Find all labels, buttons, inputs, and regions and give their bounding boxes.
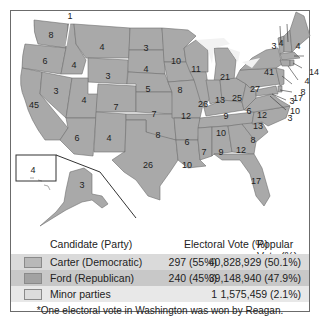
label-id: 4 [71,60,76,70]
state-ny [240,48,282,70]
popular-vote: 39,148,940 (47.9%) [209,270,301,286]
label-ms: 7 [201,147,206,157]
label-ny: 41 [264,67,274,77]
header-electoral: Electoral Vote (%) [184,238,268,250]
footnote: *One electoral vote in Washington was wo… [11,302,309,320]
state-nm [94,112,126,152]
label-ak: 3 [79,180,84,190]
label-in: 13 [215,95,225,105]
label-va: 12 [257,110,267,120]
label-az: 6 [74,133,79,143]
legend-row-minor: Minor parties 1 1,575,459 (2.1%) [11,286,309,302]
label-de: 3 [289,96,294,106]
label-wi: 11 [191,64,200,74]
label-la: 10 [182,160,192,170]
label-nc: 13 [253,121,263,131]
hawaii-inset-box [16,155,56,181]
label-sd: 4 [143,64,148,74]
state-ak [40,168,108,226]
label-nm: 4 [106,133,111,143]
state-mt [74,24,130,58]
label-al: 9 [218,147,223,157]
label-wa: 8 [48,30,53,40]
state-hi [30,178,50,190]
swatch-republican [24,273,42,284]
label-ca: 45 [29,100,39,110]
label-fl: 17 [251,176,261,186]
swatch-democratic [24,257,42,268]
label-me: 4 [295,41,300,51]
label-nv: 3 [53,86,58,96]
candidate-name: Minor parties [50,286,111,302]
us-electoral-map: 8 1 6 45 4 3 4 3 4 6 7 4 3 4 5 7 8 26 10… [0,0,328,245]
label-tx: 26 [143,160,153,170]
label-oh: 25 [232,93,242,103]
label-co: 7 [113,102,118,112]
label-sc: 8 [250,135,255,145]
label-hi: 4 [30,165,35,175]
label-ks: 7 [151,109,156,119]
label-vt: 3 [271,41,276,51]
label-ma: 14 [309,67,319,77]
label-ia: 8 [177,85,182,95]
label-mi: 21 [220,72,230,82]
state-de [278,86,282,92]
candidate-name: Carter (Democratic) [50,254,142,270]
popular-vote: 40,828,929 (50.1%) [209,254,301,270]
label-ne: 5 [145,84,150,94]
label-pa: 27 [250,84,260,94]
legend-table: Carter (Democratic) 297 (55%) 40,828,929… [11,254,309,320]
label-ga: 12 [236,145,246,155]
label-il: 26 [198,99,208,109]
legend-header: Candidate (Party) Electoral Vote (%) Pop… [11,238,309,252]
state-ct [280,60,290,66]
state-fl [214,154,270,206]
header-candidate: Candidate (Party) [50,238,132,250]
label-wa-note: 1 [67,11,72,21]
label-ky: 9 [223,111,228,121]
label-nh: 4 [278,38,283,48]
label-mn: 10 [171,56,181,66]
label-mt: 4 [99,42,104,52]
electoral-vote: 1 [211,286,217,302]
swatch-minor [24,289,42,300]
label-dc: 3 [287,113,292,123]
label-mo: 12 [181,111,191,121]
label-ok: 8 [155,130,160,140]
label-wv: 6 [246,106,251,116]
legend-row-carter: Carter (Democratic) 297 (55%) 40,828,929… [11,254,309,270]
label-nd: 3 [143,43,148,53]
label-wy: 3 [105,71,110,81]
candidate-name: Ford (Republican) [50,270,134,286]
label-ut: 4 [81,95,86,105]
label-ri: 4 [304,76,309,86]
label-ar: 6 [184,137,189,147]
label-or: 6 [42,56,47,66]
popular-vote: 1,575,459 (2.1%) [220,286,301,302]
label-tn: 10 [216,128,226,138]
legend-row-ford: Ford (Republican) 240 (45%) 39,148,940 (… [11,270,309,286]
